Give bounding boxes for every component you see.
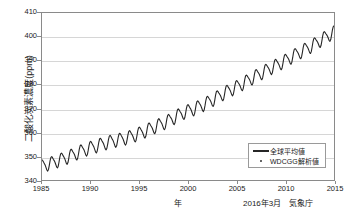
y-tick-label: 390 [10,56,37,64]
legend-label: 全球平均値 [270,146,305,156]
chart-legend: 全球平均値 WDCGG解析値 [248,143,326,168]
y-tick-label: 410 [10,8,37,16]
source-credit: 2016年3月 気象庁 [243,197,313,208]
legend-line-icon [252,150,270,152]
y-tick-label: 380 [10,80,37,88]
y-tick-label: 370 [10,105,37,113]
legend-dot-icon [252,160,270,162]
x-tick-label: 2010 [266,184,306,193]
legend-item-wdcgg: WDCGG解析値 [252,156,322,166]
legend-item-global-mean: 全球平均値 [252,146,322,156]
y-tick-label: 400 [10,32,37,40]
x-tick-label: 1985 [21,184,61,193]
legend-label: WDCGG解析値 [270,156,319,166]
x-tick-label: 2000 [168,184,208,193]
y-tick-label: 350 [10,153,37,161]
x-tick-label: 1995 [119,184,159,193]
y-tick-label: 360 [10,129,37,137]
co2-concentration-chart: 二酸化炭素濃度(ppm) 340350360370380390400410 19… [0,0,349,218]
x-tick-label: 2005 [217,184,257,193]
x-axis-title: 年 [158,197,198,208]
x-tick-label: 2015 [315,184,349,193]
x-tick-label: 1990 [70,184,110,193]
